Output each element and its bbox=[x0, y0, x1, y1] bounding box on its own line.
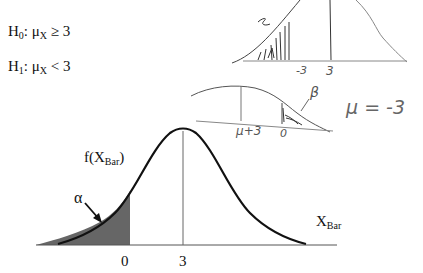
x-axis-label: XBar bbox=[316, 214, 341, 231]
alpha-arrow bbox=[85, 203, 102, 223]
x-axis-letter: X bbox=[316, 213, 327, 229]
tick-label-mean: 3 bbox=[179, 254, 187, 269]
density-subscript: Bar bbox=[105, 156, 119, 167]
sketch-middle-tick-mu-plus-3: μ+3 bbox=[236, 124, 261, 138]
sketch-top-hatching bbox=[258, 22, 289, 60]
sketch-top-distribution bbox=[232, 0, 407, 63]
x-axis-subscript: Bar bbox=[327, 220, 341, 231]
diagram-canvas bbox=[0, 0, 423, 273]
sketch-top-tick-3: 3 bbox=[326, 64, 334, 78]
mu-equals-note: μ = -3 bbox=[346, 96, 405, 118]
sketch-top-tick-neg3: -3 bbox=[296, 64, 307, 77]
alpha-label: α bbox=[74, 190, 82, 206]
main-normal-distribution bbox=[36, 129, 337, 246]
sketch-middle-tick-0: 0 bbox=[280, 127, 287, 140]
density-function-label: f(XBar) bbox=[84, 150, 124, 167]
beta-label: β bbox=[310, 84, 319, 100]
alpha-scribble bbox=[258, 18, 270, 25]
alpha-shaded-region bbox=[36, 191, 130, 245]
density-prefix: f(X bbox=[84, 149, 105, 165]
density-suffix: ) bbox=[119, 149, 124, 165]
tick-label-critical: 0 bbox=[121, 254, 129, 269]
